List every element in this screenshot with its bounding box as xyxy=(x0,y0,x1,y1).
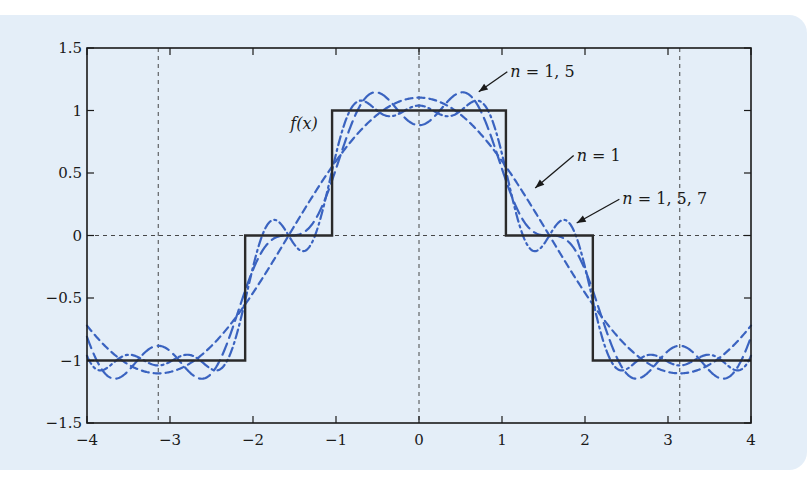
x-tick-label: −3 xyxy=(159,431,181,449)
arrowhead-icon xyxy=(577,216,587,223)
y-tick-label: −1 xyxy=(60,352,82,370)
arrowhead-icon xyxy=(479,84,488,92)
y-tick-label: −1.5 xyxy=(46,414,82,432)
x-tick-label: −2 xyxy=(242,431,264,449)
reference-lines xyxy=(87,48,751,423)
curve-label: n = 1, 5, 7 xyxy=(622,189,707,208)
x-axis-tick-labels: −4−3−2−101234 xyxy=(76,431,756,449)
x-tick-label: 0 xyxy=(414,431,424,449)
curve-label: n = 1 xyxy=(577,146,621,165)
y-tick-label: −0.5 xyxy=(46,289,82,307)
y-tick-label: 0.5 xyxy=(58,164,82,182)
x-tick-label: −1 xyxy=(325,431,347,449)
y-axis-tick-labels: 1.510.50−0.5−1−1.5 xyxy=(46,39,82,432)
x-tick-label: −4 xyxy=(76,431,98,449)
y-tick-label: 1.5 xyxy=(58,39,82,57)
curve-label: f(x) xyxy=(289,114,317,133)
x-tick-label: 3 xyxy=(663,431,673,449)
curve-label: n = 1, 5 xyxy=(510,62,574,81)
x-tick-label: 2 xyxy=(580,431,590,449)
fourier-series-chart: −4−3−2−101234 1.510.50−0.5−1−1.5 f(x)n =… xyxy=(0,0,807,489)
y-tick-label: 0 xyxy=(72,227,82,245)
x-tick-label: 1 xyxy=(497,431,507,449)
y-tick-label: 1 xyxy=(72,102,82,120)
x-tick-label: 4 xyxy=(746,431,756,449)
